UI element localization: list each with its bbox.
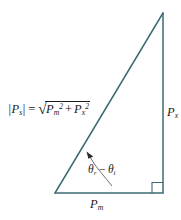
magnitude-formula: |Ps|=√Pm2+Px2 [8,100,90,116]
formula-term2-symbol: P [74,102,82,116]
formula-plus: + [65,102,72,116]
angle-leader-arrowhead-icon [87,152,94,159]
formula-term2-superscript: 2 [85,102,89,111]
figure-root: |Ps|=√Pm2+Px2 Px Pm θr−θi [0,0,181,220]
formula-lhs-subscript: s [19,108,22,117]
formula-radicand: Pm2+Px2 [45,103,90,116]
vertical-leg-subscript: x [175,111,178,120]
right-angle-marker-icon [152,183,163,194]
theta2-subscript: i [114,169,116,177]
formula-term1-superscript: 2 [59,102,63,111]
formula-bar-close: | [22,102,26,116]
horizontal-leg-label: Pm [90,198,103,211]
angle-minus-sign: − [99,163,106,175]
vertical-leg-label: Px [167,106,178,119]
formula-lhs-symbol: P [12,102,20,116]
horizontal-leg-symbol: P [90,197,98,211]
formula-term1-symbol: P [46,102,54,116]
theta2-symbol: θ [108,163,114,175]
angle-difference-label: θr−θi [88,164,116,176]
theta1-symbol: θ [88,163,94,175]
formula-equals: = [28,102,35,116]
horizontal-leg-subscript: m [98,203,104,212]
vertical-leg-symbol: P [167,105,175,119]
formula-radical: √Pm2+Px2 [38,100,90,116]
